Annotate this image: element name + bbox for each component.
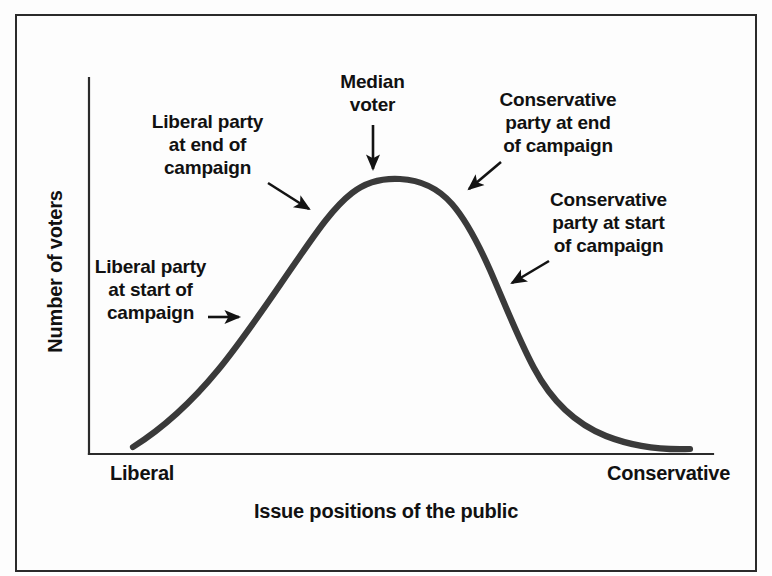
annotation-liberal-party-start: Liberal party at start of campaign xyxy=(88,255,213,324)
arrow-liberal-party-end xyxy=(268,183,309,209)
annotation-conservative-party-end: Conservative party at end of campaign xyxy=(492,88,624,157)
annotation-liberal-party-end: Liberal party at end of campaign xyxy=(140,110,275,179)
arrow-conservative-party-start xyxy=(512,261,549,283)
y-axis-title: Number of voters xyxy=(44,172,67,372)
arrow-conservative-party-end xyxy=(469,162,501,189)
x-tick-label-liberal: Liberal xyxy=(110,462,174,485)
annotation-conservative-party-start: Conservative party at start of campaign xyxy=(540,188,677,257)
annotation-median-voter: Median voter xyxy=(325,70,420,116)
x-tick-label-conservative: Conservative xyxy=(607,462,730,485)
figure-container: Liberal party at end of campaign Liberal… xyxy=(0,0,772,576)
x-axis-title: Issue positions of the public xyxy=(0,500,772,523)
